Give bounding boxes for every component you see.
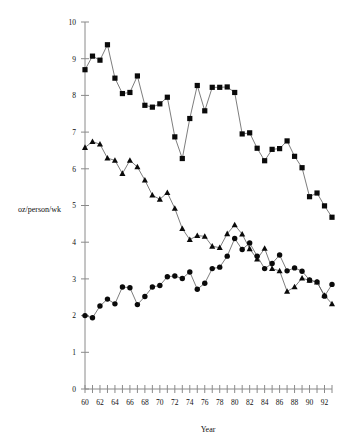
data-point <box>90 54 95 59</box>
data-point <box>187 269 192 274</box>
data-point <box>105 296 110 301</box>
data-point <box>127 285 132 290</box>
data-point <box>239 247 244 252</box>
x-tick-label: 76 <box>201 398 209 407</box>
x-tick-label: 80 <box>231 398 239 407</box>
data-point <box>157 283 162 288</box>
series-layer <box>82 42 335 320</box>
data-point <box>299 268 304 273</box>
data-point <box>195 286 200 291</box>
data-point <box>165 95 170 100</box>
data-point <box>172 134 177 139</box>
x-tick-label: 64 <box>111 398 119 407</box>
data-point <box>247 130 252 135</box>
data-point <box>202 108 207 113</box>
y-axis-title: oz/person/wk <box>18 205 61 214</box>
y-tick-label-group: 012345678910 <box>69 18 77 394</box>
series-circle <box>82 236 334 321</box>
data-point <box>262 245 268 251</box>
data-point <box>277 146 282 151</box>
data-point <box>284 138 289 143</box>
data-point <box>187 116 192 121</box>
x-tick-label: 90 <box>306 398 314 407</box>
series-polyline <box>85 239 332 318</box>
y-tick-label: 5 <box>72 201 76 210</box>
data-point <box>284 268 289 273</box>
x-tick-label: 68 <box>141 398 149 407</box>
data-point <box>97 303 102 308</box>
data-point <box>194 232 200 238</box>
data-point <box>322 293 327 298</box>
data-point <box>135 73 140 78</box>
data-point <box>232 236 237 241</box>
data-point <box>112 301 117 306</box>
x-tick-label: 60 <box>81 398 89 407</box>
data-point <box>165 274 170 279</box>
data-point <box>104 155 110 161</box>
data-point <box>299 165 304 170</box>
x-tick-label: 66 <box>126 398 134 407</box>
x-tick-label: 86 <box>276 398 284 407</box>
data-point <box>112 76 117 81</box>
data-point <box>150 105 155 110</box>
data-point <box>187 236 193 242</box>
data-point <box>135 302 140 307</box>
data-point <box>247 240 252 245</box>
data-point <box>172 205 178 211</box>
data-point <box>157 101 162 106</box>
data-point <box>97 58 102 63</box>
x-tick-label: 70 <box>156 398 164 407</box>
data-point <box>127 90 132 95</box>
data-point <box>269 261 274 266</box>
x-tick-label: 88 <box>291 398 299 407</box>
data-point <box>90 315 95 320</box>
data-point <box>89 138 95 144</box>
data-point <box>270 147 275 152</box>
data-point <box>150 284 155 289</box>
y-axis: 012345678910 <box>69 18 90 394</box>
data-point <box>284 288 290 294</box>
data-point <box>262 266 267 271</box>
data-point <box>82 67 87 72</box>
x-axis-title: Year <box>201 425 216 434</box>
data-point <box>180 276 185 281</box>
x-tick-label: 74 <box>186 398 194 407</box>
data-point <box>277 252 282 257</box>
data-point <box>232 222 238 228</box>
series-polyline <box>85 45 332 217</box>
series-triangle <box>82 138 335 306</box>
data-point <box>164 189 170 195</box>
data-point <box>142 103 147 108</box>
y-tick-label: 8 <box>72 91 76 100</box>
data-point <box>142 177 148 183</box>
data-point <box>329 282 334 287</box>
data-point <box>254 253 259 258</box>
data-point <box>82 313 87 318</box>
data-point <box>149 192 155 198</box>
data-point <box>172 273 177 278</box>
data-point <box>195 83 200 88</box>
series-square <box>82 42 334 220</box>
data-point <box>127 157 133 163</box>
data-point <box>269 265 275 271</box>
y-tick-label: 7 <box>72 128 76 137</box>
x-tick-label-group: 6062646668707274767880828486889092 <box>81 398 328 407</box>
y-tick-label: 3 <box>72 275 76 284</box>
data-point <box>179 225 185 231</box>
line-chart: 012345678910 606264666870727476788082848… <box>0 0 348 446</box>
y-tick-label: 6 <box>72 165 76 174</box>
data-point <box>314 190 319 195</box>
data-point <box>82 144 88 150</box>
data-point <box>225 253 230 258</box>
y-tick-label: 2 <box>72 311 76 320</box>
y-tick-label: 1 <box>72 348 76 357</box>
x-axis: 6062646668707274767880828486889092 <box>81 385 332 407</box>
data-point <box>217 264 222 269</box>
y-tick-label: 10 <box>69 18 77 27</box>
y-tick-label: 0 <box>72 385 76 394</box>
data-point <box>232 90 237 95</box>
data-point <box>314 279 319 284</box>
data-point <box>105 42 110 47</box>
data-point <box>120 91 125 96</box>
data-point <box>210 85 215 90</box>
